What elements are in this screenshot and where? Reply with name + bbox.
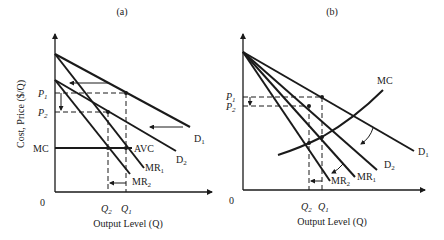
d2-curve bbox=[55, 80, 176, 151]
d2-label: D2 bbox=[176, 154, 187, 167]
p1-label: P1 bbox=[37, 88, 48, 101]
mc-curve bbox=[278, 90, 383, 155]
d1-label: D1 bbox=[194, 133, 205, 146]
mr1-curve bbox=[55, 54, 144, 168]
mc-label: MC bbox=[377, 75, 393, 86]
p2-label: P2 bbox=[37, 107, 48, 120]
q2-label: Q2 bbox=[301, 201, 312, 214]
avc-label: AVC bbox=[134, 143, 154, 154]
panel-a: (a) Cost, Price ($/Q) P1 P2 M bbox=[15, 6, 212, 230]
q2-label: Q2 bbox=[101, 203, 112, 216]
point-mr2-mc bbox=[106, 146, 110, 150]
mr1-label: MR1 bbox=[145, 162, 165, 175]
panel-b: (b) P1 P2 0 Q2 Q1 Output Level (Q) bbox=[225, 6, 429, 228]
point-p2-q2 bbox=[106, 110, 110, 114]
point-mr1-mc bbox=[320, 135, 324, 139]
q1-label: Q1 bbox=[318, 201, 329, 214]
demand-shift-diagram: (a) Cost, Price ($/Q) P1 P2 M bbox=[0, 0, 444, 240]
point-mr1-mc bbox=[124, 146, 128, 150]
d1-label: D1 bbox=[418, 146, 429, 159]
point-mr2-mc bbox=[307, 141, 311, 145]
point-p2-q2 bbox=[307, 104, 311, 108]
mc-tick-label: MC bbox=[33, 143, 49, 154]
mr2-curve bbox=[55, 80, 130, 174]
x-axis-label: Output Level (Q) bbox=[297, 216, 366, 228]
mr2-label: MR2 bbox=[132, 176, 152, 189]
x-axis-label: Output Level (Q) bbox=[93, 218, 162, 230]
panel-a-title: (a) bbox=[116, 6, 127, 18]
mr-shift-arrow bbox=[332, 164, 343, 173]
origin-label: 0 bbox=[40, 197, 45, 208]
origin-label: 0 bbox=[229, 195, 234, 206]
y-axis-label: Cost, Price ($/Q) bbox=[15, 80, 27, 148]
d2-label: D2 bbox=[384, 159, 395, 172]
mr2-label: MR2 bbox=[331, 175, 351, 188]
mr1-curve bbox=[243, 52, 355, 177]
d1-curve bbox=[55, 54, 190, 127]
point-p1-q1 bbox=[320, 95, 324, 99]
demand-shift-arrow bbox=[361, 128, 373, 144]
point-p1-q1 bbox=[124, 91, 128, 95]
q1-label: Q1 bbox=[121, 203, 132, 216]
d1-curve bbox=[243, 52, 414, 151]
panel-b-title: (b) bbox=[326, 6, 338, 18]
mr1-label: MR1 bbox=[357, 171, 377, 184]
